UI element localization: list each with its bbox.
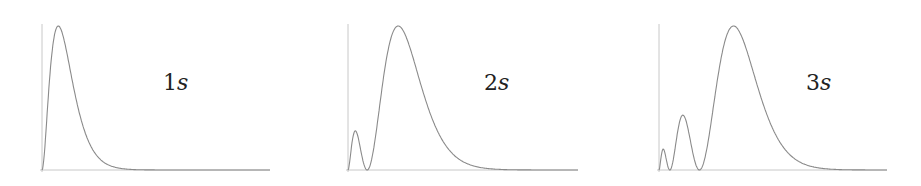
- plot-3s: [0, 0, 921, 186]
- distribution-curve: [659, 26, 887, 170]
- axes: [657, 24, 887, 172]
- chart-3s: [0, 0, 921, 186]
- label-3s: 3s: [806, 70, 831, 95]
